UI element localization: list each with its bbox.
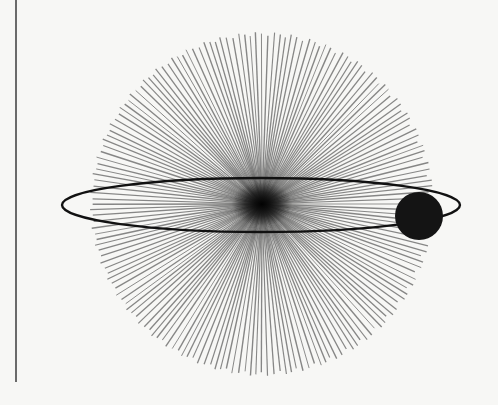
margin-rule-line bbox=[15, 0, 17, 382]
starburst-core bbox=[231, 182, 293, 226]
starburst-orbit-illustration bbox=[0, 0, 498, 405]
planet-sphere bbox=[395, 192, 443, 240]
diagram-canvas bbox=[0, 0, 498, 405]
